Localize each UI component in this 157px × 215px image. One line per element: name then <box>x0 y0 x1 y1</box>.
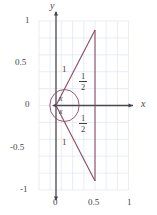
x-tick-1: 1 <box>127 198 132 207</box>
angle-label-upper: x <box>59 94 63 103</box>
y-tick-neg1: -1 <box>20 185 28 194</box>
y-tick-neg0.5: -0.5 <box>10 143 24 152</box>
opposite-upper-fraction: 1 2 <box>76 72 90 91</box>
x-axis-arrow-left <box>52 103 57 107</box>
y-tick-1: 1 <box>25 16 30 25</box>
y-axis-arrow-top <box>54 11 58 16</box>
fraction-numerator: 1 <box>76 114 90 122</box>
hypotenuse-lower-label: 1 <box>62 138 67 147</box>
fraction-denominator: 2 <box>76 83 90 91</box>
x-axis-arrow <box>129 103 134 107</box>
x-axis-label: x <box>141 99 145 109</box>
y-tick-0: 0 <box>25 100 30 109</box>
figure-canvas <box>0 0 157 215</box>
geometry-figure: x y 1 0.5 0 -0.5 -1 0 0.5 1 1 1 1 2 1 2 … <box>0 0 157 215</box>
y-axis-label: y <box>50 1 54 11</box>
x-tick-0.5: 0.5 <box>88 198 99 207</box>
fraction-numerator: 1 <box>76 72 90 80</box>
x-tick-0: 0 <box>53 198 58 207</box>
y-tick-0.5: 0.5 <box>15 58 26 67</box>
opposite-lower-fraction: 1 2 <box>76 114 90 133</box>
fraction-denominator: 2 <box>76 125 90 133</box>
hypotenuse-upper-label: 1 <box>62 65 67 74</box>
angle-label-lower: x <box>59 107 63 116</box>
